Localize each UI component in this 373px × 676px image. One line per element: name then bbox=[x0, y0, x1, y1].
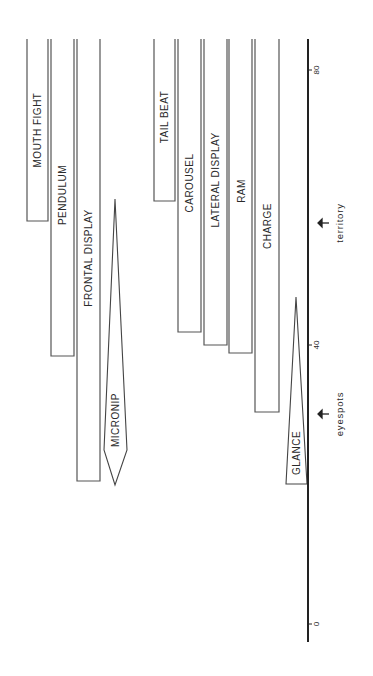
annotation-eyespots-label: eyespots bbox=[334, 392, 345, 436]
label-ram: RAM bbox=[236, 179, 247, 203]
label-glance: GLANCE bbox=[291, 431, 302, 475]
label-mouth-fight: MOUTH FIGHT bbox=[32, 93, 43, 168]
wedge-glance: GLANCE bbox=[286, 297, 307, 484]
age-axis: 0 40 80 bbox=[308, 39, 321, 642]
bar-charge: CHARGE bbox=[255, 39, 279, 412]
annotation-eyespots: eyespots bbox=[318, 392, 345, 436]
label-frontal-display: FRONTAL DISPLAY bbox=[83, 209, 94, 306]
label-tail-beat: TAIL BEAT bbox=[159, 91, 170, 144]
bar-tail-beat: TAIL BEAT bbox=[154, 39, 175, 201]
label-charge: CHARGE bbox=[262, 203, 273, 249]
label-lateral-display: LATERAL DISPLAY bbox=[210, 132, 221, 227]
label-pendulum: PENDULUM bbox=[57, 165, 68, 225]
label-micronip: MICRONIP bbox=[110, 393, 121, 447]
bar-pendulum: PENDULUM bbox=[51, 39, 74, 356]
annotation-territory: territory bbox=[318, 203, 345, 242]
tick-label-80: 80 bbox=[312, 65, 321, 74]
bar-ram: RAM bbox=[229, 39, 252, 353]
bar-frontal-display: FRONTAL DISPLAY bbox=[77, 39, 100, 481]
tick-label-40: 40 bbox=[312, 340, 321, 349]
bar-carousel: CAROUSEL bbox=[178, 39, 201, 332]
annotation-territory-label: territory bbox=[334, 203, 345, 242]
bar-lateral-display: LATERAL DISPLAY bbox=[204, 39, 227, 345]
spindle-micronip: MICRONIP bbox=[104, 199, 127, 485]
behavior-ontogeny-chart: MOUTH FIGHT PENDULUM FRONTAL DISPLAY MIC… bbox=[0, 0, 373, 676]
bar-mouth-fight: MOUTH FIGHT bbox=[27, 39, 48, 221]
label-carousel: CAROUSEL bbox=[184, 153, 195, 212]
tick-label-0: 0 bbox=[312, 621, 321, 626]
